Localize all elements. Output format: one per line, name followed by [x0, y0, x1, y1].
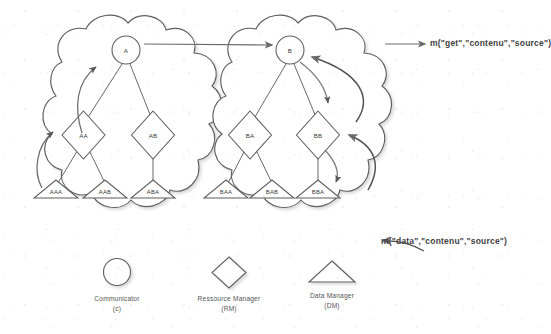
node-label-ABA: ABA [147, 189, 159, 195]
annotation-get-message: m("get","contenu","source") [430, 38, 551, 48]
node-label-AAB: AAB [99, 189, 111, 195]
node-label-AB: AB [149, 132, 158, 139]
node-label-B: B [288, 47, 292, 54]
node-label-AA: AA [79, 132, 88, 139]
node-label-AAA: AAA [50, 189, 62, 195]
legend-circle-icon [104, 259, 131, 286]
legend-abbr-communicator: (c) [113, 305, 121, 312]
node-label-BAB: BAB [266, 189, 278, 195]
node-label-BBA: BBA [312, 189, 324, 195]
legend-label-communicator: Communicator [94, 295, 139, 302]
legend-label-resource-manager: Ressource Manager [198, 295, 261, 302]
node-label-A: A [124, 47, 128, 54]
node-label-BA: BA [246, 132, 255, 139]
legend-abbr-data-manager: (DM) [324, 302, 339, 309]
legend-diamond-icon [212, 257, 246, 288]
legend-label-data-manager: Data Manager [310, 292, 354, 299]
legend-abbr-resource-manager: (RM) [221, 305, 236, 312]
node-label-BAA: BAA [220, 189, 232, 195]
node-label-BB: BB [314, 132, 323, 139]
legend-triangle-icon [309, 261, 355, 282]
annotation-data-message: m("data","contenu","source") [381, 236, 507, 246]
